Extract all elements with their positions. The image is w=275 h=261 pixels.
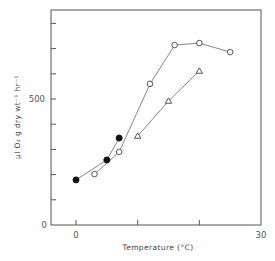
open-circle-marker xyxy=(147,81,153,87)
open-circle-marker xyxy=(227,49,233,55)
plot-border xyxy=(51,10,261,225)
filled-circle-marker xyxy=(104,157,110,163)
filled-circle-marker xyxy=(73,177,79,183)
plot-frame xyxy=(51,10,261,225)
y-tick-label-0: 0 xyxy=(42,220,47,230)
axis-ticks xyxy=(51,23,199,225)
open-circle-marker xyxy=(197,40,203,46)
open-circles-line xyxy=(95,43,231,174)
x-tick-label-0: 0 xyxy=(73,230,78,240)
series-markers xyxy=(73,40,233,183)
open-triangle-marker xyxy=(196,68,202,73)
open-circle-marker xyxy=(172,42,178,48)
chart: 0 500 0 30 Temperature (°C) μl O₂ g dry … xyxy=(0,0,275,261)
x-tick-label-30: 30 xyxy=(256,230,267,240)
x-axis-title: Temperature (°C) xyxy=(121,243,193,252)
open-circle-marker xyxy=(116,149,122,155)
series-lines xyxy=(76,43,230,180)
filled-circle-marker xyxy=(116,135,122,141)
y-axis-title: μl O₂ g dry wt⁻¹ hr⁻¹ xyxy=(13,75,22,159)
open-circle-marker xyxy=(92,171,98,177)
y-tick-label-500: 500 xyxy=(29,94,45,104)
